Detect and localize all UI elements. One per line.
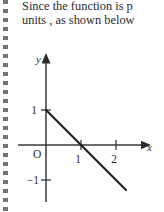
graph-svg: x y O 1 2 1 −1: [0, 30, 164, 212]
plotted-line-series: [46, 110, 126, 190]
prose-line-2: units , as shown below: [22, 13, 164, 27]
x-axis-label: x: [146, 141, 152, 153]
origin-label: O: [33, 148, 41, 160]
y-axis-label: y: [35, 53, 41, 65]
coordinate-graph-figure: x y O 1 2 1 −1: [0, 30, 164, 212]
scanned-textbook-fragment: Since the function is p units , as shown…: [0, 0, 164, 212]
x-tick-label-1: 1: [75, 153, 81, 165]
prose-line-1: Since the function is p: [22, 0, 164, 13]
prose-text: Since the function is p units , as shown…: [22, 0, 164, 28]
y-tick-label-neg1: −1: [27, 174, 39, 186]
y-tick-label-1: 1: [31, 104, 37, 116]
x-tick-label-2: 2: [111, 153, 117, 165]
